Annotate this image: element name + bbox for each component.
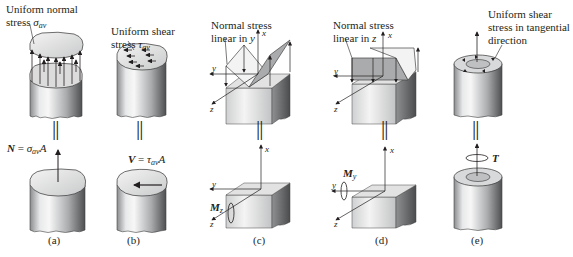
equivalence-sign-c: ||: [256, 116, 262, 141]
equivalence-sign-b: ||: [136, 116, 142, 141]
panel-d-top-y-axis-label: y: [334, 66, 338, 76]
caption-b: (b): [127, 234, 140, 246]
equivalence-sign-e: ||: [472, 116, 478, 141]
panel-b-top-label-line1: Uniform shear: [111, 25, 175, 37]
equivalence-sign-a: ||: [52, 116, 58, 141]
panel-d-top-z-axis-label: z: [334, 104, 338, 114]
panel-b-bottom-cylinder: [117, 169, 167, 232]
panel-d-top-label-line2: linear in z: [333, 32, 376, 44]
caption-d: (d): [375, 234, 388, 246]
panel-c-bottom-x-axis-label: x: [265, 144, 269, 154]
panel-a-top-cylinder: [30, 25, 83, 119]
panel-c-moment-label: Mz: [210, 201, 223, 217]
caption-e: (e): [471, 234, 483, 246]
panel-c-top-y-axis-label: y: [212, 63, 216, 73]
panel-d-top-block: [334, 32, 418, 124]
panel-a-top-label-line2: stress σav: [6, 16, 46, 32]
panel-d-top-x-axis-label: x: [388, 30, 392, 40]
panel-a-bottom-cylinder: [30, 150, 86, 233]
panel-d-bottom-x-axis-label: x: [390, 145, 394, 155]
panel-c-top-block: [210, 30, 290, 124]
caption-a: (a): [48, 234, 60, 246]
equivalence-sign-d: ||: [381, 116, 387, 141]
panel-c-bottom-z-axis-label: z: [210, 219, 214, 229]
panel-d-moment-label: My: [343, 167, 356, 183]
panel-b-top-label-line2: stress τav: [111, 38, 150, 54]
panel-e-top-label-line3: direction: [488, 34, 527, 46]
panel-c-top-label-line2: linear in y: [211, 32, 255, 44]
panel-a-top-label-line1: Uniform normal: [6, 3, 78, 15]
panel-c-top-z-axis-label: z: [210, 104, 214, 114]
panel-c-top-x-axis-label: x: [262, 28, 266, 38]
caption-c: (c): [253, 234, 265, 246]
panel-e-top-label-line2: stress in tangential: [488, 21, 570, 33]
panel-d-bottom-block: [332, 147, 416, 228]
panel-d-top-label-line1: Normal stress: [333, 19, 394, 31]
panel-d-bottom-y-axis-label: y: [332, 180, 336, 190]
panel-b-resultant-label: V = τavA: [128, 153, 165, 169]
panel-c-bottom-y-axis-label: y: [212, 179, 216, 189]
panel-d-bottom-z-axis-label: z: [334, 219, 338, 229]
panel-e-top-label-line1: Uniform shear: [488, 8, 552, 20]
panel-e-torque-label: T: [492, 152, 499, 164]
panel-a-resultant-label: N = σavA: [7, 142, 46, 158]
